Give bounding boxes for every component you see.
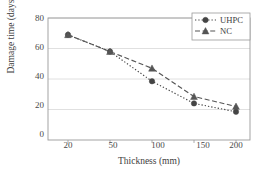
x-tick-20: 20: [48, 140, 88, 150]
legend-label-uhpc: UHPC: [220, 15, 243, 25]
x-axis-label: Thickness (mm): [48, 156, 250, 166]
x-tick-100: 100: [138, 140, 178, 150]
y-tick-80: 80: [20, 13, 44, 23]
y-axis-label: Damage time (days): [6, 0, 16, 90]
y-tick-0: 0: [20, 129, 44, 139]
y-tick-40: 40: [20, 71, 44, 81]
x-tick-50: 50: [93, 140, 133, 150]
x-tick-200: 200: [216, 140, 256, 150]
legend-label-nc: NC: [220, 26, 232, 36]
y-tick-60: 60: [20, 42, 44, 52]
chart-figure: Damage time (days) 80 60 40 20 0 20 50 1…: [0, 0, 273, 176]
y-tick-20: 20: [20, 100, 44, 110]
data-series: [65, 31, 240, 114]
chart-legend: UHPCNC: [192, 13, 250, 40]
